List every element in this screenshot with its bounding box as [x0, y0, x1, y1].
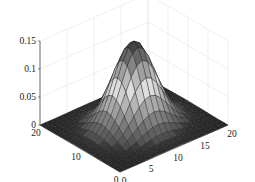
z-tick-label: 0.1: [24, 64, 36, 74]
y-tick-label: 20: [31, 128, 41, 138]
y-tick-label: 0: [114, 175, 119, 182]
x-tick-label: 10: [173, 153, 183, 163]
y-tick-label: 10: [71, 152, 81, 162]
x-tick-label: 5: [149, 164, 154, 174]
x-tick-label: 0: [122, 176, 127, 182]
gaussian-surface: [40, 41, 228, 172]
z-tick-label: 0.15: [19, 36, 36, 46]
x-tick-label: 20: [227, 129, 237, 139]
x-tick-label: 15: [200, 141, 210, 151]
z-tick-label: 0.05: [19, 92, 36, 102]
surface-plot: 00.050.10.150510152001020: [0, 0, 255, 182]
